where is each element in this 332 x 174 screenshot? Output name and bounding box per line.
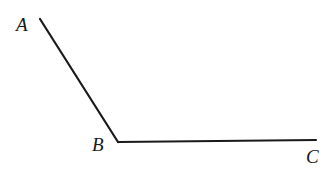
point-label-c: C	[306, 147, 319, 166]
point-label-a: A	[16, 15, 28, 34]
segment-bc	[118, 140, 316, 142]
angle-lines	[0, 0, 332, 174]
segment-ab	[40, 19, 118, 142]
angle-diagram: A B C	[0, 0, 332, 174]
point-label-b: B	[92, 135, 104, 154]
